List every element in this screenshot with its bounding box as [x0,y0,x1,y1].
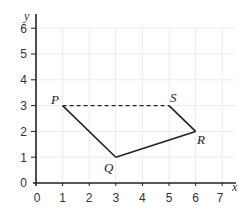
svg-text:0: 0 [20,176,27,190]
svg-text:0: 0 [34,191,41,205]
segment-qr [116,131,196,157]
point-label-p: P [50,92,59,107]
svg-text:6: 6 [192,191,199,205]
svg-text:1: 1 [59,191,66,205]
point-label-q: Q [104,160,114,175]
svg-text:4: 4 [20,73,27,87]
y-tick-labels: 0 1 2 3 4 5 6 [20,22,27,191]
svg-text:3: 3 [112,191,119,205]
svg-text:3: 3 [20,99,27,113]
point-label-s: S [170,90,177,105]
segment-rs [169,106,196,132]
svg-text:2: 2 [86,191,93,205]
point-label-r: R [196,132,205,147]
svg-text:1: 1 [20,151,27,165]
coordinate-diagram: 0 1 2 3 4 5 6 7 0 1 2 3 4 5 6 x y P Q R … [0,0,250,211]
svg-text:2: 2 [20,125,27,139]
x-axis-label: x [231,180,238,194]
tick-marks [31,28,222,186]
y-axis-label: y [23,9,30,23]
svg-text:5: 5 [20,47,27,61]
svg-text:6: 6 [20,22,27,36]
svg-text:4: 4 [139,191,146,205]
svg-text:7: 7 [217,191,224,205]
x-tick-labels: 0 1 2 3 4 5 6 7 [34,191,224,205]
axes [33,14,236,186]
svg-text:5: 5 [166,191,173,205]
